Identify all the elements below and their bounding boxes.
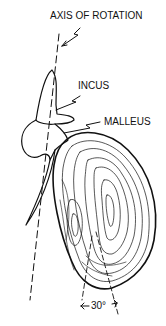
malleus-label: MALLEUS	[104, 116, 151, 127]
diagram-drawing	[0, 0, 166, 326]
malleus-leader-arrow	[64, 122, 100, 133]
angle-arrow-left	[81, 303, 89, 309]
incus-outline	[36, 70, 74, 124]
angle-label: 30°	[91, 300, 106, 311]
ear-ossicle-diagram: AXIS OF ROTATION INCUS MALLEUS 30°	[0, 0, 166, 326]
incus-label: INCUS	[78, 80, 109, 91]
malleus-outline	[22, 120, 68, 160]
malleus-handle	[26, 150, 55, 225]
axis-of-rotation-label: AXIS OF ROTATION	[50, 10, 142, 21]
incus-leader-arrow	[56, 96, 80, 110]
